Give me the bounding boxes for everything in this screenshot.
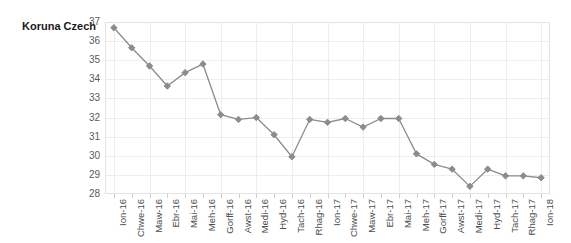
x-axis-tick (452, 194, 453, 198)
x-axis-tick (345, 194, 346, 198)
y-axis-tick-label: 32 (78, 113, 100, 123)
x-axis-tick-label: Gorff-16 (225, 199, 235, 234)
x-axis-tick (114, 194, 115, 198)
x-axis-tick-label: Maw-16 (154, 199, 164, 233)
x-axis-tick (541, 194, 542, 198)
y-axis-tick-label: 33 (78, 93, 100, 103)
x-axis-tick (274, 194, 275, 198)
y-axis-tick-label: 29 (78, 170, 100, 180)
x-axis-tick-label: Chwe-16 (136, 199, 146, 237)
x-axis-tick (523, 194, 524, 198)
x-axis-tick-label: Awst-17 (456, 199, 466, 233)
x-axis-tick-label: Meh-16 (207, 199, 217, 231)
y-axis-tick-label: 36 (78, 36, 100, 46)
x-axis-tick (185, 194, 186, 198)
x-axis-tick-label: Maw-17 (367, 199, 377, 233)
x-axis-tick (256, 194, 257, 198)
x-axis-tick (328, 194, 329, 198)
y-axis-tick-label: 31 (78, 132, 100, 142)
x-axis-tick (132, 194, 133, 198)
x-axis-tick-label: Ebr-16 (171, 199, 181, 228)
y-axis-tick-label: 30 (78, 151, 100, 161)
x-axis-tick-label: Tach-17 (510, 199, 520, 233)
x-axis-tick (167, 194, 168, 198)
x-axis-tick-label: Medi-17 (474, 199, 484, 233)
x-axis-tick-label: Ion-18 (545, 199, 555, 226)
y-axis-tick-label: 28 (78, 189, 100, 199)
x-axis-tick-label: Rhag-17 (527, 199, 537, 235)
x-axis-tick-label: Tach-16 (296, 199, 306, 233)
x-axis-tick (203, 194, 204, 198)
x-axis-tick-label: Chwe-17 (349, 199, 359, 237)
x-axis-tick (470, 194, 471, 198)
x-axis-tick (221, 194, 222, 198)
x-axis-tick-label: Hyd-17 (492, 199, 502, 230)
x-axis-tick (292, 194, 293, 198)
plot-border (105, 22, 550, 194)
x-axis-tick (434, 194, 435, 198)
x-axis-tick (239, 194, 240, 198)
x-axis-tick-label: Awst-16 (243, 199, 253, 233)
x-axis-tick-label: Ebr-17 (385, 199, 395, 228)
x-axis-tick-label: Rhag-16 (314, 199, 324, 235)
x-axis-tick (488, 194, 489, 198)
x-axis-tick (310, 194, 311, 198)
x-axis-tick (417, 194, 418, 198)
x-axis-tick-label: Hyd-16 (278, 199, 288, 230)
x-axis-tick-label: Ion-16 (118, 199, 128, 226)
y-axis-tick-label: 35 (78, 55, 100, 65)
x-axis-tick-label: Meh-17 (421, 199, 431, 231)
y-axis-tick-label: 34 (78, 74, 100, 84)
line-chart: Koruna Czech 37363534333231302928 Ion-16… (0, 0, 571, 243)
x-axis-tick (506, 194, 507, 198)
x-axis-tick (381, 194, 382, 198)
x-axis-tick-label: Mai-16 (189, 199, 199, 228)
x-axis-tick-label: Medi-16 (260, 199, 270, 233)
x-axis-tick (399, 194, 400, 198)
plot-area (105, 22, 550, 194)
y-axis-tick-label: 37 (78, 17, 100, 27)
x-axis-tick-label: Mai-17 (403, 199, 413, 228)
x-axis-tick-label: Ion-17 (332, 199, 342, 226)
x-axis-tick (363, 194, 364, 198)
x-axis-tick-label: Gorff-17 (438, 199, 448, 234)
x-axis-tick (150, 194, 151, 198)
